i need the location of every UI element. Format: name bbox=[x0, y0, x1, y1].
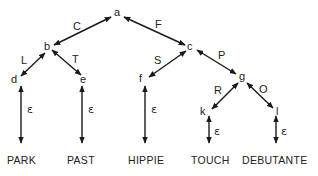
edge-label-O: O bbox=[259, 83, 268, 95]
word-past: PAST bbox=[67, 154, 95, 166]
epsilon-label-l: ε bbox=[281, 125, 287, 138]
edge-a-b bbox=[54, 17, 111, 45]
epsilon-label-e: ε bbox=[88, 103, 94, 116]
epsilon-label-k: ε bbox=[214, 125, 220, 138]
edge-label-T: T bbox=[72, 53, 79, 65]
node-l: l bbox=[276, 105, 278, 117]
word-touch: TOUCH bbox=[191, 154, 230, 166]
node-f: f bbox=[139, 72, 143, 84]
edge-label-C: C bbox=[73, 20, 81, 32]
node-b: b bbox=[44, 40, 50, 52]
word-debutante: DEBUTANTE bbox=[242, 154, 308, 166]
word-park: PARK bbox=[7, 154, 36, 166]
edge-label-F: F bbox=[155, 18, 162, 30]
node-k: k bbox=[200, 105, 206, 117]
node-c: c bbox=[187, 40, 193, 52]
node-g: g bbox=[239, 70, 245, 82]
edge-label-S: S bbox=[154, 54, 161, 66]
epsilon-label-d: ε bbox=[27, 103, 33, 116]
node-e: e bbox=[80, 73, 86, 85]
epsilon-label-f: ε bbox=[151, 103, 157, 116]
edge-label-R: R bbox=[214, 84, 222, 96]
trie-diagram: a b c d e f g k l C F L T S P R O ε ε ε … bbox=[0, 0, 318, 176]
node-d: d bbox=[11, 73, 17, 85]
edge-c-g bbox=[197, 50, 236, 74]
edge-label-P: P bbox=[218, 49, 225, 61]
word-hippie: HIPPIE bbox=[128, 154, 164, 166]
edge-label-L: L bbox=[21, 54, 27, 66]
node-a: a bbox=[114, 6, 121, 18]
